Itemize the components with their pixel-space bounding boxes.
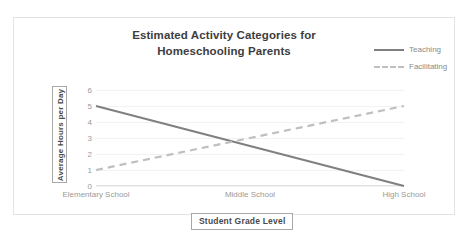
gridline [96,186,404,187]
legend-swatch-dashed-line-icon [374,66,404,68]
y-axis-tick-label: 2 [78,150,92,159]
y-axis-tick-label: 4 [78,118,92,127]
x-axis-tick-labels: Elementary SchoolMiddle SchoolHigh Schoo… [96,190,404,202]
y-axis-tick-label: 1 [78,166,92,175]
legend-label-teaching: Teaching [409,45,441,54]
x-axis-tick-label: Elementary School [62,190,129,199]
y-axis-tick-label: 3 [78,134,92,143]
chart-title-line-2: Homeschooling Parents [74,43,374,59]
y-axis-tick-labels: 6543210 [76,90,92,186]
y-axis-tick-label: 5 [78,102,92,111]
x-axis-title: Student Grade Level [191,213,293,230]
y-axis-tick-label: 6 [78,86,92,95]
plot-area [96,90,404,186]
x-axis-tick-label: High School [382,190,425,199]
legend-swatch-solid-line-icon [374,49,404,51]
legend-item-facilitating[interactable]: Facilitating [374,60,469,73]
legend-label-facilitating: Facilitating [409,62,447,71]
series-lines [96,90,404,186]
y-axis-title-label: Average Hours per Day [55,88,64,180]
chart-legend: Teaching Facilitating [374,43,469,77]
legend-item-teaching[interactable]: Teaching [374,43,469,56]
chart-frame: Estimated Activity Categories for Homesc… [13,17,455,215]
x-axis-tick-label: Middle School [225,190,275,199]
chart-title-line-1: Estimated Activity Categories for [132,29,316,41]
series-line-teaching [96,106,404,186]
series-line-facilitating [96,106,404,170]
y-axis-title: Average Hours per Day [52,86,67,183]
x-axis-title-label: Student Grade Level [199,216,285,226]
chart-title: Estimated Activity Categories for Homesc… [74,27,374,59]
